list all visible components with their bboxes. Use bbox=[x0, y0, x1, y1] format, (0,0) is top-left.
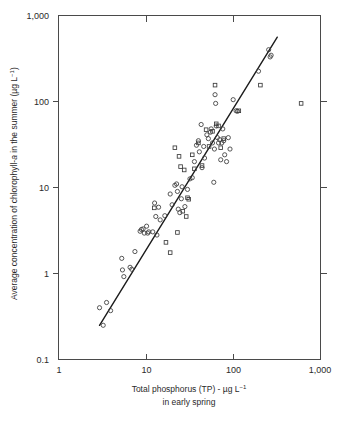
data-point-circle bbox=[185, 187, 189, 191]
data-point-circle bbox=[180, 185, 184, 189]
regression-line bbox=[100, 37, 278, 325]
data-markers bbox=[97, 48, 303, 328]
data-point-circle bbox=[213, 93, 217, 97]
y-tick-label-10: 10 bbox=[39, 183, 49, 193]
x-tick-label-10: 10 bbox=[141, 365, 151, 375]
data-point-circle bbox=[120, 268, 124, 272]
data-point-circle bbox=[104, 300, 108, 304]
data-point-circle bbox=[212, 147, 216, 151]
data-point-square bbox=[164, 241, 168, 245]
data-point-circle bbox=[133, 249, 137, 253]
data-point-circle bbox=[168, 192, 172, 196]
data-point-square bbox=[173, 146, 177, 150]
x-tick-label-100: 100 bbox=[226, 365, 241, 375]
y-axis-title: Average concentration of chlorophyll-a i… bbox=[9, 67, 19, 300]
data-point-square bbox=[204, 128, 208, 132]
data-point-square bbox=[213, 83, 217, 87]
data-point-circle bbox=[183, 204, 187, 208]
data-point-square bbox=[153, 206, 157, 210]
data-point-circle bbox=[120, 256, 124, 260]
y-tick-label-0.1: 0.1 bbox=[36, 355, 49, 365]
data-point-square bbox=[219, 146, 223, 150]
data-point-square bbox=[184, 215, 188, 219]
data-point-square bbox=[259, 83, 263, 87]
data-point-square bbox=[168, 251, 172, 255]
data-point-circle bbox=[153, 201, 157, 205]
data-point-circle bbox=[226, 136, 230, 140]
data-point-circle bbox=[158, 218, 162, 222]
data-point-circle bbox=[206, 137, 210, 141]
data-point-circle bbox=[163, 214, 167, 218]
y-axis-title-close: ) bbox=[9, 67, 19, 70]
data-point-circle bbox=[192, 160, 196, 164]
x-axis-title-line1: Total phosphorus (TP) - µg L−1 bbox=[132, 384, 247, 394]
y-tick-label-1: 1 bbox=[44, 269, 49, 279]
data-point-circle bbox=[122, 275, 126, 279]
data-point-circle bbox=[219, 158, 223, 162]
x-tick-label-1000: 1,000 bbox=[309, 365, 332, 375]
y-tick-label-100: 100 bbox=[34, 97, 49, 107]
x-axis-title-line2: in early spring bbox=[163, 397, 216, 407]
data-point-circle bbox=[179, 197, 183, 201]
data-point-circle bbox=[144, 224, 148, 228]
data-point-circle bbox=[154, 214, 158, 218]
data-point-circle bbox=[202, 144, 206, 148]
y-tick-label-1000: 1,000 bbox=[26, 11, 49, 21]
data-point-circle bbox=[212, 180, 216, 184]
x-tick-labels: 1 10 100 1,000 bbox=[56, 365, 331, 375]
figure-container: 1,000 100 10 1 0.1 1 10 100 1,000 Averag… bbox=[0, 0, 347, 421]
data-point-square bbox=[177, 155, 181, 159]
x-axis-title-text: Total phosphorus (TP) - µg L bbox=[132, 384, 240, 394]
data-point-square bbox=[182, 168, 186, 172]
y-axis-title-tail: in the summer (µg L bbox=[9, 77, 19, 155]
data-point-square bbox=[176, 231, 180, 235]
x-axis-title-superscript: −1 bbox=[240, 384, 248, 390]
data-point-circle bbox=[157, 205, 161, 209]
data-point-circle bbox=[197, 150, 201, 154]
data-point-circle bbox=[151, 230, 155, 234]
data-point-square bbox=[299, 102, 303, 106]
x-tick-label-1: 1 bbox=[56, 365, 61, 375]
data-point-circle bbox=[97, 306, 101, 310]
data-point-circle bbox=[223, 153, 227, 157]
data-point-circle bbox=[214, 101, 218, 105]
data-point-circle bbox=[199, 122, 203, 126]
data-point-circle bbox=[147, 230, 151, 234]
y-tick-labels: 1,000 100 10 1 0.1 bbox=[26, 11, 49, 365]
data-point-circle bbox=[175, 189, 179, 193]
data-point-circle bbox=[101, 323, 105, 327]
axis-ticks bbox=[53, 16, 327, 360]
data-point-square bbox=[190, 153, 194, 157]
y-axis-title-main: Average concentration of chlorophyll- bbox=[9, 160, 19, 300]
data-point-square bbox=[179, 165, 183, 169]
data-point-circle bbox=[224, 160, 228, 164]
data-point-circle bbox=[228, 147, 232, 151]
scatter-plot: 1,000 100 10 1 0.1 1 10 100 1,000 Averag… bbox=[0, 0, 347, 421]
data-point-circle bbox=[231, 98, 235, 102]
